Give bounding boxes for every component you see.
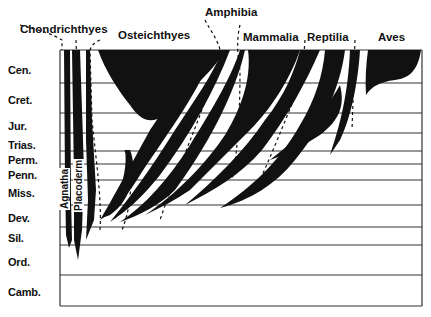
vertical-label-agnatha: Agnatha — [59, 168, 70, 210]
period-label-silurian: Sil. — [8, 232, 24, 244]
phylogeny-drawing — [0, 0, 431, 317]
clade-label-reptilia: Reptilia — [307, 31, 349, 43]
clade-label-mammalia: Mammalia — [243, 31, 299, 43]
period-label-cenozoic: Cen. — [8, 64, 31, 76]
period-label-ordovician: Ord. — [8, 256, 30, 268]
period-label-pennsylvanian: Penn. — [8, 169, 37, 181]
clade-label-amphibia: Amphibia — [205, 6, 257, 18]
period-label-mississippian: Miss. — [8, 187, 35, 199]
period-label-jurassic: Jur. — [8, 120, 27, 132]
period-label-permian: Perm. — [8, 154, 38, 166]
clade-label-aves: Aves — [378, 31, 405, 43]
lineage-spindles — [64, 50, 421, 260]
clade-label-chondrichthyes: Chondrichthyes — [20, 23, 108, 35]
period-label-devonian: Dev. — [8, 212, 30, 224]
period-label-triassic: Trias. — [8, 139, 36, 151]
vertical-label-placoderm: Placoderm — [73, 159, 84, 212]
period-label-cretaceous: Cret. — [8, 94, 32, 106]
period-label-cambrian: Camb. — [8, 286, 41, 298]
clade-label-osteichthyes: Osteichthyes — [118, 29, 190, 41]
